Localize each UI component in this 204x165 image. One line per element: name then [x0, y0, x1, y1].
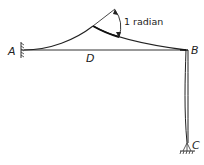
deflected-curve-left	[24, 26, 93, 50]
tangent-line	[93, 9, 115, 26]
label-b: B	[191, 44, 199, 57]
label-a: A	[7, 45, 16, 58]
label-d: D	[86, 52, 94, 65]
deflected-curve-right-bold	[93, 26, 119, 37]
label-c: C	[192, 139, 200, 152]
angle-label: 1 radian	[124, 16, 163, 27]
frame-diagram: 1 radian A B C D	[0, 0, 204, 165]
deflected-curve-right	[93, 26, 186, 50]
column-bc-outer	[185, 50, 187, 143]
